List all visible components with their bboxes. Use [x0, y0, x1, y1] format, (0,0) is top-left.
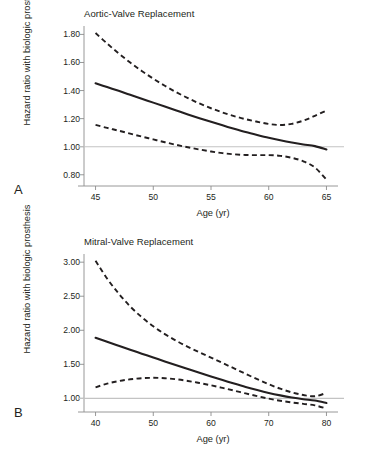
figure-hazard-ratio-by-age: A Aortic-Valve Replacement Hazard ratio …	[0, 0, 380, 456]
y-tick-label: 1.40	[63, 86, 80, 96]
y-tick-label: 2.00	[63, 325, 80, 335]
panel-b-lower-ci-curve	[96, 378, 327, 409]
panel-b: B Mitral-Valve Replacement Hazard ratio …	[0, 228, 380, 456]
panel-b-y-axis-label: Hazard ratio with biologic prosthesis	[22, 204, 32, 354]
y-tick-label: 1.80	[63, 29, 80, 39]
y-tick-label: 1.60	[63, 57, 80, 67]
y-tick-label: 2.50	[63, 291, 80, 301]
panel-a-svg	[84, 26, 338, 186]
x-tick-label: 45	[91, 192, 101, 202]
x-tick-label: 50	[148, 192, 158, 202]
x-tick-label: 80	[322, 418, 332, 428]
panel-b-svg	[84, 254, 338, 412]
panel-b-x-tick-labels: 4050607080	[84, 416, 338, 430]
panel-b-axes	[78, 254, 338, 416]
panel-a-x-axis-label: Age (yr)	[88, 208, 338, 218]
panel-b-plot-area	[84, 254, 338, 412]
panel-a-upper-ci-curve	[96, 33, 327, 125]
x-tick-label: 50	[148, 418, 158, 428]
panel-a-title: Aortic-Valve Replacement	[84, 8, 194, 19]
x-tick-label: 70	[264, 418, 274, 428]
panel-a: A Aortic-Valve Replacement Hazard ratio …	[0, 0, 380, 228]
x-tick-label: 60	[206, 418, 216, 428]
panel-b-x-axis-label: Age (yr)	[88, 434, 338, 444]
x-tick-label: 60	[264, 192, 274, 202]
panel-b-hazard-ratio-curve	[96, 338, 327, 403]
panel-a-x-tick-labels: 4550556065	[84, 190, 338, 204]
panel-b-y-tick-labels: 1.001.502.002.503.00	[52, 254, 80, 412]
y-tick-label: 0.80	[63, 170, 80, 180]
y-tick-label: 3.00	[63, 257, 80, 267]
y-tick-label: 1.50	[63, 359, 80, 369]
panel-letter-b: B	[14, 405, 23, 420]
x-tick-label: 40	[91, 418, 101, 428]
panel-a-y-axis-label: Hazard ratio with biologic prosthesis	[22, 0, 32, 126]
panel-a-hazard-ratio-curve	[96, 83, 327, 149]
panel-b-title: Mitral-Valve Replacement	[84, 236, 193, 247]
x-tick-label: 65	[322, 192, 332, 202]
panel-a-y-tick-labels: 0.801.001.201.401.601.80	[52, 26, 80, 186]
panel-letter-a: A	[14, 182, 23, 197]
x-tick-label: 55	[206, 192, 216, 202]
y-tick-label: 1.00	[63, 142, 80, 152]
y-tick-label: 1.20	[63, 114, 80, 124]
panel-a-lower-ci-curve	[96, 125, 327, 180]
panel-a-plot-area	[84, 26, 338, 186]
y-tick-label: 1.00	[63, 393, 80, 403]
